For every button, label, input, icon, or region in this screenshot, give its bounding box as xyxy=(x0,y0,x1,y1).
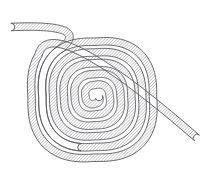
spiral-illustration: Hatched spiral line drawing A thick ribb… xyxy=(0,0,210,186)
figure-canvas: Hatched spiral line drawing A thick ribb… xyxy=(0,0,210,186)
